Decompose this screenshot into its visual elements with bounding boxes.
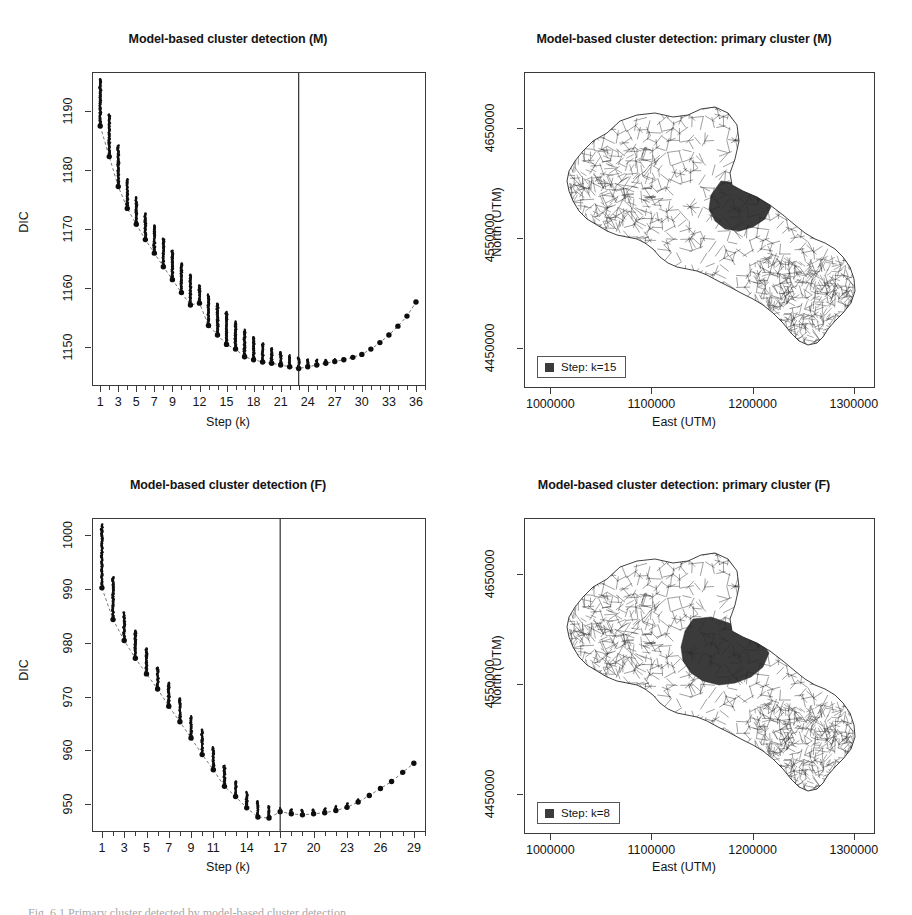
x-tick-24 — [358, 832, 359, 836]
x-tick-label-14: 14 — [240, 841, 254, 855]
x-tick-37 — [425, 386, 426, 390]
y-tick-label-960: 960 — [61, 740, 75, 761]
y-tick-4650000 — [517, 128, 523, 129]
y-tick-label-970: 970 — [61, 686, 75, 707]
y-tick-label-4650000: 4650000 — [483, 550, 497, 599]
x-tick-label-7: 7 — [165, 841, 172, 855]
x-tick-12 — [200, 386, 201, 392]
x-tick-29 — [353, 386, 354, 390]
x-tick-label-5: 5 — [133, 395, 140, 409]
x-tick-17 — [280, 832, 281, 838]
panel-title-map-male: Model-based cluster detection: primary c… — [456, 32, 912, 46]
panel-map-male: Model-based cluster detection: primary c… — [456, 0, 912, 458]
x-tick-label-9: 9 — [169, 395, 176, 409]
x-tick-10 — [202, 832, 203, 836]
x-tick-10 — [181, 386, 182, 390]
y-tick-1170 — [85, 229, 91, 230]
x-tick-label-9: 9 — [188, 841, 195, 855]
x-tick-30 — [362, 386, 363, 392]
x-tick-14 — [247, 832, 248, 838]
x-tick-23 — [299, 386, 300, 390]
map-legend-label-female: Step: k=8 — [561, 807, 610, 819]
x-tick-label-15: 15 — [220, 395, 234, 409]
x-tick-28 — [344, 386, 345, 390]
cluster-swatch-icon — [545, 363, 554, 372]
y-tick-label-4550000: 4550000 — [483, 214, 497, 263]
plot-area-dic-female — [92, 518, 426, 832]
y-tick-1160 — [85, 288, 91, 289]
y-tick-4550000 — [517, 238, 523, 239]
x-tick-label-23: 23 — [340, 841, 354, 855]
panel-dic-female: Model-based cluster detection (F) DIC St… — [0, 458, 456, 898]
x-tick-9 — [191, 832, 192, 838]
x-tick-20 — [272, 386, 273, 390]
x-tick-1200000 — [753, 388, 754, 394]
x-tick-29 — [414, 832, 415, 838]
map-legend-male: Step: k=15 — [537, 356, 626, 378]
x-tick-26 — [326, 386, 327, 390]
panel-title-dic-male: Model-based cluster detection (M) — [0, 32, 456, 46]
x-tick-1 — [100, 386, 101, 392]
x-tick-4 — [127, 386, 128, 390]
x-tick-4 — [135, 832, 136, 836]
x-tick-24 — [308, 386, 309, 392]
x-tick-2 — [109, 386, 110, 390]
x-tick-label-18: 18 — [247, 395, 261, 409]
map-legend-female: Step: k=8 — [537, 802, 620, 824]
x-axis-label-map-male: East (UTM) — [456, 415, 912, 429]
x-tick-22 — [336, 832, 337, 836]
x-tick-label-24: 24 — [301, 395, 315, 409]
x-tick-1100000 — [651, 834, 652, 840]
x-tick-30 — [425, 832, 426, 836]
dic-female-scatter — [93, 519, 425, 831]
x-tick-label-1300000: 1300000 — [829, 843, 878, 857]
x-tick-1 — [102, 832, 103, 838]
x-tick-32 — [380, 386, 381, 390]
x-tick-11 — [190, 386, 191, 390]
x-tick-label-1000000: 1000000 — [526, 397, 575, 411]
dic-male-scatter — [93, 73, 425, 385]
y-tick-label-1180: 1180 — [61, 157, 75, 184]
x-tick-1200000 — [753, 834, 754, 840]
map-legend-label-male: Step: k=15 — [561, 361, 616, 373]
panel-title-map-female: Model-based cluster detection: primary c… — [456, 478, 912, 492]
y-tick-1190 — [85, 111, 91, 112]
x-tick-label-26: 26 — [373, 841, 387, 855]
x-tick-9 — [172, 386, 173, 392]
x-tick-1000000 — [550, 388, 551, 394]
x-tick-16 — [269, 832, 270, 836]
x-tick-35 — [407, 386, 408, 390]
x-tick-8 — [163, 386, 164, 390]
y-tick-label-1160: 1160 — [61, 274, 75, 301]
x-tick-28 — [403, 832, 404, 836]
panel-title-dic-female: Model-based cluster detection (F) — [0, 478, 456, 492]
x-tick-label-20: 20 — [307, 841, 321, 855]
x-tick-1300000 — [854, 834, 855, 840]
x-tick-5 — [147, 832, 148, 838]
x-tick-13 — [236, 832, 237, 836]
map-area-male: Step: k=15 — [524, 72, 875, 388]
y-axis-label-dic-female: DIC — [17, 640, 31, 700]
apulia-map-female — [525, 519, 874, 833]
figure-caption: Fig. 6.1 Primary cluster detected by mod… — [28, 906, 346, 915]
y-tick-label-1170: 1170 — [61, 216, 75, 243]
x-tick-7 — [169, 832, 170, 838]
y-tick-label-980: 980 — [61, 632, 75, 653]
x-tick-21 — [281, 386, 282, 392]
y-tick-990 — [85, 589, 91, 590]
y-tick-1150 — [85, 347, 91, 348]
cluster-swatch-icon — [545, 809, 554, 818]
x-tick-3 — [118, 386, 119, 392]
x-tick-label-12: 12 — [193, 395, 207, 409]
x-axis-label-dic-female: Step (k) — [0, 860, 456, 874]
x-tick-21 — [325, 832, 326, 836]
x-tick-label-1000000: 1000000 — [526, 843, 575, 857]
y-tick-label-1190: 1190 — [61, 98, 75, 125]
y-tick-label-4550000: 4550000 — [483, 660, 497, 709]
x-tick-27 — [392, 832, 393, 836]
x-tick-label-3: 3 — [115, 395, 122, 409]
x-tick-6 — [145, 386, 146, 390]
x-tick-1000000 — [550, 834, 551, 840]
x-tick-5 — [136, 386, 137, 392]
x-tick-25 — [369, 832, 370, 836]
